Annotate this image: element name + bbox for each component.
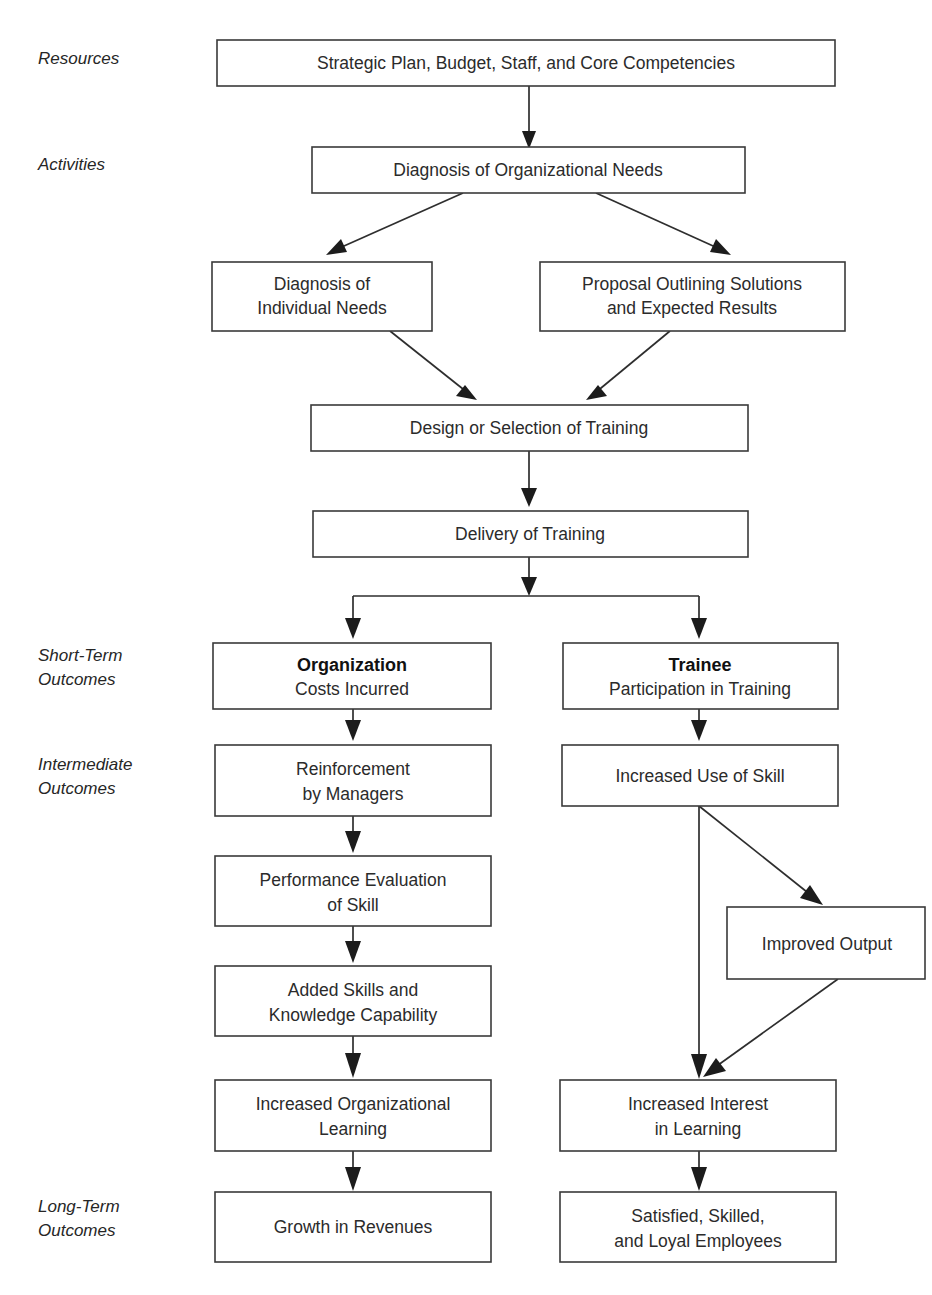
stage-label-intermediate-line1: Intermediate [38,755,133,774]
box-increased-interest-line2: in Learning [655,1119,742,1139]
box-added-skills-line2: Knowledge Capability [269,1005,438,1025]
box-strategic-plan-label: Strategic Plan, Budget, Staff, and Core … [317,53,735,73]
box-trainee-rect[interactable] [563,643,838,709]
box-added-skills-and-knowledge-capability[interactable]: Added Skills and Knowledge Capability [215,966,491,1036]
box-increased-interest-line1: Increased Interest [628,1094,768,1114]
connector-delivery-split [345,557,707,639]
box-organization-rect[interactable] [213,643,491,709]
box-trainee-title: Trainee [668,655,731,675]
box-delivery-label: Delivery of Training [455,524,605,544]
connector-trainee-to-increased-use [691,709,707,741]
box-reinforcement-line1: Reinforcement [296,759,410,779]
stage-label-long-term-line1: Long-Term [38,1197,120,1216]
stage-label-short-term-line1: Short-Term [38,646,122,665]
connector-organization-to-reinforcement [345,709,361,741]
box-diagnosis-organizational-needs[interactable]: Diagnosis of Organizational Needs [312,147,745,193]
box-diagnosis-individual-line1: Diagnosis of [274,274,370,294]
box-performance-eval-rect[interactable] [215,856,491,926]
stage-label-intermediate-line2: Outcomes [38,779,116,798]
box-growth-in-revenues[interactable]: Growth in Revenues [215,1192,491,1262]
box-satisfied-employees-line2: and Loyal Employees [614,1231,782,1251]
box-delivery-of-training[interactable]: Delivery of Training [313,511,748,557]
box-diagnosis-individual-rect[interactable] [212,262,432,331]
box-organization[interactable]: Organization Costs Incurred [213,643,491,709]
box-increased-use-label: Increased Use of Skill [615,766,784,786]
box-added-skills-line1: Added Skills and [288,980,418,1000]
connector-diagnosis-org-to-proposal [596,193,731,255]
box-diagnosis-individual-needs[interactable]: Diagnosis of Individual Needs [212,262,432,331]
connector-added-skills-to-org-learning [345,1036,361,1078]
connector-reinforcement-to-performance [345,816,361,853]
box-strategic-plan[interactable]: Strategic Plan, Budget, Staff, and Core … [217,40,835,86]
box-reinforcement-rect[interactable] [215,745,491,816]
box-proposal-line1: Proposal Outlining Solutions [582,274,802,294]
connector-individual-to-design [390,331,477,400]
connector-increased-interest-to-satisfied [691,1151,707,1191]
box-performance-eval-line2: of Skill [327,895,379,915]
connector-strategic-to-diagnosis-org [522,86,536,149]
box-satisfied-employees-line1: Satisfied, Skilled, [631,1206,764,1226]
box-increased-org-learning-rect[interactable] [215,1080,491,1151]
box-performance-eval-line1: Performance Evaluation [260,870,447,890]
box-proposal-rect[interactable] [540,262,845,331]
connector-increased-use-to-improved-output [699,806,823,905]
stage-label-activities: Activities [37,155,106,174]
box-increased-interest-rect[interactable] [560,1080,836,1151]
box-design-or-selection-of-training[interactable]: Design or Selection of Training [311,405,748,451]
box-design-selection-label: Design or Selection of Training [410,418,648,438]
box-increased-org-learning-line1: Increased Organizational [256,1094,451,1114]
box-increased-org-learning-line2: Learning [319,1119,387,1139]
box-added-skills-rect[interactable] [215,966,491,1036]
box-growth-revenues-label: Growth in Revenues [274,1217,433,1237]
connector-org-learning-to-growth [345,1151,361,1191]
connector-increased-use-to-increased-interest [691,806,707,1079]
box-diagnosis-individual-line2: Individual Needs [257,298,387,318]
connector-design-to-delivery [521,451,537,507]
connector-diagnosis-org-to-individual [326,193,463,255]
connector-improved-output-to-increased-interest [703,979,838,1077]
box-improved-output[interactable]: Improved Output [727,907,925,979]
box-increased-use-of-skill[interactable]: Increased Use of Skill [562,745,838,806]
box-organization-title: Organization [297,655,407,675]
box-trainee[interactable]: Trainee Participation in Training [563,643,838,709]
box-increased-organizational-learning[interactable]: Increased Organizational Learning [215,1080,491,1151]
connector-performance-to-added-skills [345,926,361,963]
flowchart-canvas: Resources Activities Short-Term Outcomes… [0,0,932,1295]
box-improved-output-label: Improved Output [762,934,892,954]
box-proposal-line2: and Expected Results [607,298,777,318]
box-organization-subtitle: Costs Incurred [295,679,409,699]
box-diagnosis-org-label: Diagnosis of Organizational Needs [393,160,663,180]
box-trainee-subtitle: Participation in Training [609,679,791,699]
box-satisfied-employees-rect[interactable] [560,1192,836,1262]
box-performance-evaluation-of-skill[interactable]: Performance Evaluation of Skill [215,856,491,926]
box-reinforcement-by-managers[interactable]: Reinforcement by Managers [215,745,491,816]
stage-label-long-term-line2: Outcomes [38,1221,116,1240]
box-reinforcement-line2: by Managers [302,784,403,804]
box-increased-interest-in-learning[interactable]: Increased Interest in Learning [560,1080,836,1151]
stage-label-resources: Resources [38,49,120,68]
stage-label-short-term-line2: Outcomes [38,670,116,689]
connector-proposal-to-design [586,331,670,400]
box-proposal-outlining-solutions[interactable]: Proposal Outlining Solutions and Expecte… [540,262,845,331]
box-satisfied-skilled-loyal-employees[interactable]: Satisfied, Skilled, and Loyal Employees [560,1192,836,1262]
